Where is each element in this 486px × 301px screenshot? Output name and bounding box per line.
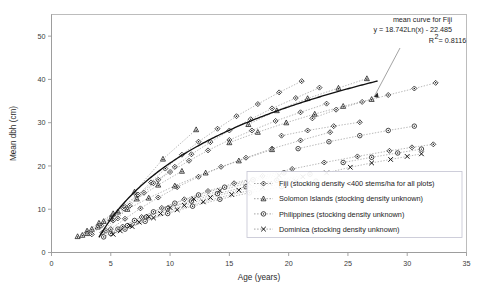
marker-triangle-core [97,227,99,229]
marker-circle-core [224,186,225,187]
y-tick-label: 30 [38,118,46,127]
marker-triangle-core [157,185,159,187]
marker-diamond-core [357,156,359,158]
marker-x [348,165,353,170]
annotation-line-1: mean curve for Fiji [393,15,453,24]
marker-diamond-core [233,183,235,185]
marker-diamond-core [323,162,325,164]
x-tick-label: 20 [285,259,293,268]
marker-diamond-core [245,157,247,159]
legend-label-1: Solomon Islands (stocking density unknow… [279,194,423,203]
marker-diamond-core [161,207,163,209]
marker-diamond-core [198,141,200,143]
marker-diamond-core [140,208,142,210]
equation-annotation: mean curve for Fijiy = 18.742Ln(x) - 22.… [373,15,466,98]
series-line-2-3 [298,126,414,149]
marker-circle-core [245,186,246,187]
marker-triangle-core [148,198,150,200]
x-tick-label: 15 [225,259,233,268]
marker-circle-core [342,162,343,163]
marker-diamond-core [326,103,328,105]
marker-x [182,203,187,208]
marker-circle-core [219,199,220,200]
legend-item-1[interactable]: Solomon Islands (stocking density unknow… [254,194,423,203]
marker-triangle-core [271,149,273,151]
marker-triangle-core [205,173,207,175]
y-tick-label: 40 [38,75,46,84]
marker-diamond-core [169,171,171,173]
legend-item-0[interactable]: Fiji (stocking density <400 stems/ha for… [254,179,435,188]
marker-triangle-core [257,132,259,134]
marker-circle-core [192,205,193,206]
marker-triangle-core [77,236,79,238]
annotation-line-3-rest: = 0.8116 [439,36,467,45]
marker-circle-core [127,225,128,226]
marker-diamond-core [207,150,209,152]
marker-triangle-core [103,221,105,223]
marker-diamond-core [91,234,93,236]
marker-diamond-core [319,87,321,89]
marker-diamond-core [414,88,416,90]
marker-diamond-core [257,103,259,105]
marker-triangle-core [338,88,340,90]
marker-diamond-core [210,141,212,143]
series-line-1-3 [248,79,367,125]
marker-diamond-core [329,131,331,133]
marker-triangle-core [136,199,138,201]
marker-diamond-core [153,183,155,185]
marker-diamond-core [220,166,222,168]
marker-circle-core [167,213,168,214]
marker-diamond-core [188,160,190,162]
legend-label-0: Fiji (stocking density <400 stems/ha for… [279,179,435,188]
marker-diamond-core [300,140,302,142]
marker-x [237,188,242,193]
marker-diamond-core [271,108,273,110]
marker-circle-core [397,152,398,153]
marker-triangle-core [86,233,88,235]
marker-x [208,195,213,200]
marker-diamond-core [361,101,363,103]
marker-x [229,192,234,197]
y-axis-title: Mean dbh (cm) [9,106,18,161]
marker-diamond-core [129,205,131,207]
x-tick-label: 0 [50,259,54,268]
annotation-leader-line [374,48,400,97]
marker-diamond-core [263,183,265,185]
marker-triangle-core [366,78,368,80]
marker-x [419,152,424,157]
marker-triangle-core [307,98,309,100]
marker-triangle-core [285,122,287,124]
marker-circle-core [146,216,147,217]
marker-diamond-core [117,218,119,220]
marker-diamond-core [387,94,389,96]
x-tick-label: 25 [344,259,352,268]
marker-diamond-core [157,197,159,199]
marker-diamond-core [198,176,200,178]
marker-circle-core [153,211,154,212]
marker-triangle-core [248,124,250,126]
marker-diamond-core [278,92,280,94]
marker-circle-core [421,148,422,149]
marker-circle-core [328,141,329,142]
marker-x [218,188,223,193]
marker-circle-core [103,236,104,237]
marker-diamond-core [281,135,283,137]
marker-triangle-core [342,106,344,108]
x-tick-label: 10 [166,259,174,268]
marker-triangle-core [263,199,265,201]
marker-diamond-core [312,118,314,120]
scatter-plot: 0102030405005101520253035 mean curve for… [0,0,486,301]
marker-diamond-core [174,166,176,168]
marker-triangle-core [162,159,164,161]
marker-x [405,154,410,159]
marker-circle-core [134,220,135,221]
marker-diamond-core [411,147,413,149]
y-tick-label: 20 [38,162,46,171]
legend: Fiji (stocking density <400 stems/ha for… [247,172,462,238]
marker-diamond-core [307,130,309,132]
marker-diamond-core [295,97,297,99]
marker-triangle-core [98,223,100,225]
marker-diamond-core [435,82,437,84]
marker-diamond-core [236,115,238,117]
marker-circle-core [263,213,264,214]
